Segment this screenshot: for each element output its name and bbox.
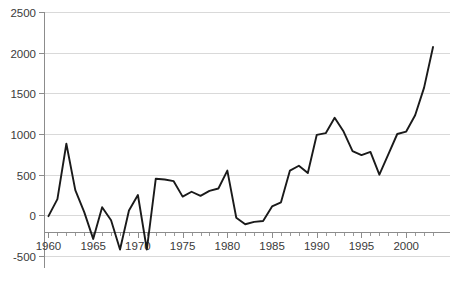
- x-axis-tick-label: 1990: [304, 240, 330, 252]
- y-axis-tick-labels-group: 25002000150010005000-500: [10, 7, 36, 263]
- line-chart: 25002000150010005000-500 196019651970197…: [0, 0, 456, 281]
- x-axis-tick-label: 2000: [393, 240, 419, 252]
- y-axis-tick-label: 1500: [10, 88, 36, 100]
- y-axis-tick-label: 1000: [10, 129, 36, 141]
- x-axis-tick-labels-group: 196019651970197519801985199019952000: [36, 240, 419, 252]
- y-axis-tick-label: -500: [13, 251, 36, 263]
- x-axis-minor-ticks-group: [49, 233, 434, 238]
- x-axis-tick-label: 1960: [36, 240, 62, 252]
- y-axis-tick-label: 0: [30, 210, 36, 222]
- x-axis-tick-label: 1985: [259, 240, 285, 252]
- y-axis-tick-label: 500: [17, 170, 36, 182]
- x-axis-tick-label: 1995: [349, 240, 375, 252]
- x-axis-tick-label: 1965: [80, 240, 106, 252]
- data-series-line: [48, 47, 433, 250]
- x-axis-tick-label: 1975: [170, 240, 196, 252]
- y-axis-tick-label: 2500: [10, 7, 36, 19]
- gridlines-group: [44, 13, 450, 257]
- y-axis-tick-label: 2000: [10, 48, 36, 60]
- y-axis-ticks-group: [39, 13, 44, 257]
- x-axis-tick-label: 1980: [215, 240, 241, 252]
- chart-canvas: 25002000150010005000-500 196019651970197…: [0, 0, 456, 281]
